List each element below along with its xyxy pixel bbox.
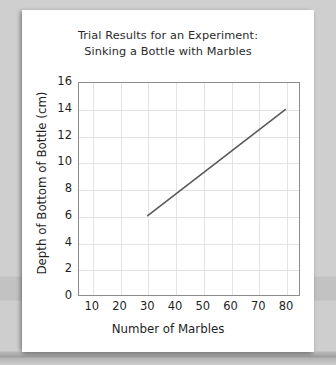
x-axis-tick-label: 10 bbox=[79, 301, 105, 313]
chart-title: Trial Results for an Experiment: Sinking… bbox=[22, 28, 314, 59]
x-axis-tick-label: 20 bbox=[107, 301, 133, 313]
y-axis-tick-labels: 0246810121416 bbox=[50, 82, 72, 296]
chart-figure: Trial Results for an Experiment: Sinking… bbox=[22, 10, 314, 352]
x-axis-tick-label: 80 bbox=[273, 301, 299, 313]
y-axis-tick-label: 6 bbox=[50, 210, 72, 222]
chart-card: Trial Results for an Experiment: Sinking… bbox=[22, 10, 314, 352]
chart-title-line-1: Trial Results for an Experiment: bbox=[22, 28, 314, 44]
chart-title-line-2: Sinking a Bottle with Marbles bbox=[22, 44, 314, 60]
x-axis-tick-label: 40 bbox=[162, 301, 188, 313]
y-axis-tick-label: 12 bbox=[50, 130, 72, 142]
y-axis-tick-label: 0 bbox=[50, 290, 72, 302]
y-axis-tick-label: 14 bbox=[50, 103, 72, 115]
data-line bbox=[79, 83, 299, 295]
y-axis-tick-label: 2 bbox=[50, 264, 72, 276]
y-axis-tick-label: 10 bbox=[50, 157, 72, 169]
y-axis-tick-label: 8 bbox=[50, 183, 72, 195]
x-axis-tick-label: 30 bbox=[134, 301, 160, 313]
x-axis-tick-label: 50 bbox=[190, 301, 216, 313]
y-axis-tick-label: 4 bbox=[50, 237, 72, 249]
x-axis-tick-label: 70 bbox=[245, 301, 271, 313]
plot-area bbox=[78, 82, 300, 296]
x-axis-title: Number of Marbles bbox=[22, 322, 314, 336]
y-axis-tick-label: 16 bbox=[50, 76, 72, 88]
y-axis-title: Depth of Bottom of Bottle (cm) bbox=[35, 76, 49, 290]
x-axis-tick-label: 60 bbox=[218, 301, 244, 313]
x-axis-tick-labels: 1020304050607080 bbox=[78, 301, 300, 317]
